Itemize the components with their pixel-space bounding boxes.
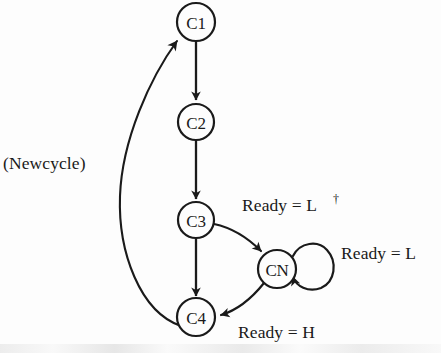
node-c1-label: C1 xyxy=(186,14,205,33)
node-cn[interactable]: CN xyxy=(258,250,296,288)
label-ready-h: Ready = H xyxy=(238,322,315,342)
label-newcycle: (Newcycle) xyxy=(3,153,86,173)
label-ready-l-dagger-mark: † xyxy=(333,192,339,206)
node-c4[interactable]: C4 xyxy=(177,298,215,336)
diagram-canvas: C1 C2 C3 CN C4 (Newcycle) Ready = L † Re… xyxy=(0,0,441,353)
edge-cn-to-c4 xyxy=(221,283,264,315)
node-c1[interactable]: C1 xyxy=(177,3,215,41)
edge-c4-to-c1 xyxy=(120,41,181,326)
node-c2-label: C2 xyxy=(186,114,205,133)
node-c3-label: C3 xyxy=(186,212,205,231)
node-c4-label: C4 xyxy=(186,309,206,328)
node-c3[interactable]: C3 xyxy=(178,202,214,238)
label-ready-l-dagger: Ready = L † xyxy=(242,192,339,215)
edge-cn-self-loop xyxy=(293,244,334,290)
node-c2[interactable]: C2 xyxy=(178,104,214,140)
label-ready-l-dagger-text: Ready = L xyxy=(242,195,317,215)
state-diagram-figure: C1 C2 C3 CN C4 (Newcycle) Ready = L † Re… xyxy=(0,0,441,353)
label-ready-l: Ready = L xyxy=(341,243,416,263)
edge-c3-to-cn xyxy=(214,224,261,251)
node-cn-label: CN xyxy=(265,261,288,280)
